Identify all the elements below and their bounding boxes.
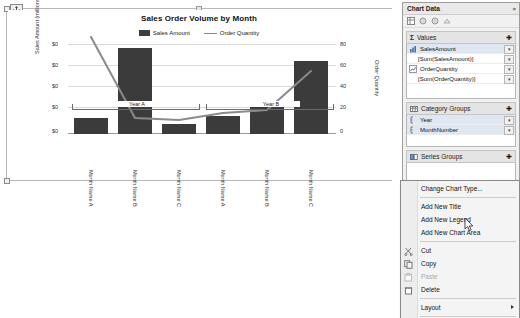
context-menu-separator-1: [420, 197, 516, 198]
menu-label-copy: Copy: [421, 260, 436, 267]
series-groups-header[interactable]: Series Groups ✚: [406, 150, 516, 163]
close-icon[interactable]: ×: [512, 4, 516, 15]
values-dropdown-order-quantity-expression[interactable]: ▾: [504, 75, 514, 84]
group-label-year-a: Year A: [108, 101, 166, 107]
group-icon: [409, 116, 417, 124]
menu-label-delete: Delete: [421, 286, 440, 293]
chart-data-pane-title-text: Chart Data: [407, 5, 440, 12]
chart-data-pane[interactable]: Chart Data × Σ Values ✚: [402, 2, 520, 186]
y-tick-left-0: $0: [34, 129, 58, 135]
add-category-group-icon[interactable]: ✚: [506, 105, 512, 113]
category-groups-empty-space[interactable]: [407, 135, 515, 146]
category-groups-dropdown-monthnumber[interactable]: ▾: [504, 126, 514, 135]
selection-border-bottom: [6, 180, 392, 181]
add-group-icon[interactable]: [431, 17, 439, 25]
menu-item-add-new-legend[interactable]: Add New Legend: [401, 213, 519, 226]
chart-context-menu[interactable]: Change Chart Type... Add New Title Add N…: [400, 180, 520, 318]
add-value-icon[interactable]: ✚: [506, 34, 512, 42]
category-groups-label-year: Year: [420, 117, 432, 123]
order-quantity-line-series[interactable]: [68, 32, 336, 134]
y-tick-right-20: 20: [340, 105, 364, 111]
bar-chart-icon: [409, 45, 417, 53]
scissors-icon: [404, 247, 413, 256]
sigma-icon: Σ: [410, 34, 414, 41]
values-dropdown-sales-amount-expression[interactable]: ▾: [504, 55, 514, 64]
values-section-header[interactable]: Σ Values ✚: [406, 31, 516, 44]
category-groups-dropdown-year[interactable]: ▾: [504, 116, 514, 125]
values-list-empty-space[interactable]: [407, 84, 515, 98]
category-groups-section: Category Groups ✚ Year ▾ MonthNumber ▾: [406, 102, 516, 147]
values-dropdown-order-quantity[interactable]: ▾: [504, 65, 514, 74]
x-category-5: Month Name C: [308, 170, 314, 207]
menu-item-cut[interactable]: Cut: [401, 244, 519, 257]
category-groups-list[interactable]: Year ▾ MonthNumber ▾: [406, 115, 516, 147]
y-tick-left-1: $0: [34, 105, 58, 111]
selection-border-left: [6, 8, 7, 180]
resize-handle-bottom-left[interactable]: [4, 178, 10, 184]
values-section: Σ Values ✚ SalesAmount ▾ [Sum(SalesAmoun…: [406, 31, 516, 99]
context-menu-separator-4: [420, 316, 516, 317]
add-field-icon[interactable]: [419, 17, 427, 25]
category-groups-row-monthnumber[interactable]: MonthNumber ▾: [407, 125, 515, 135]
menu-item-delete[interactable]: Delete: [401, 283, 519, 296]
menu-item-paste: Paste: [401, 270, 519, 283]
menu-label-cut: Cut: [421, 247, 431, 254]
x-category-1: Month Name B: [132, 170, 138, 207]
group-label-year-b: Year B: [242, 101, 300, 107]
context-menu-separator-3: [420, 298, 516, 299]
values-expression-order-quantity: [Sum(OrderQuantity)]: [409, 76, 475, 82]
group-icon: [409, 126, 417, 134]
copy-icon: [404, 260, 413, 269]
menu-label-change-chart-type: Change Chart Type...: [421, 185, 483, 192]
mouse-cursor-icon: [464, 217, 475, 232]
values-label-sales-amount: SalesAmount: [420, 46, 456, 52]
context-menu-separator-2: [420, 241, 516, 242]
values-list[interactable]: SalesAmount ▾ [Sum(SalesAmount)] ▾ Order…: [406, 44, 516, 99]
values-row-sales-amount-expression[interactable]: [Sum(SalesAmount)] ▾: [407, 54, 515, 64]
menu-item-layout[interactable]: Layout: [401, 301, 519, 314]
y-tick-right-80: 80: [340, 42, 364, 48]
menu-label-paste: Paste: [421, 273, 438, 280]
menu-item-add-new-title[interactable]: Add New Title: [401, 200, 519, 213]
menu-item-copy[interactable]: Copy: [401, 257, 519, 270]
chart-plot-area[interactable]: Month Name A Month Name B Month Name C M…: [68, 44, 336, 134]
submenu-arrow-icon: [511, 305, 514, 309]
values-header-label: Values: [417, 34, 436, 41]
values-row-order-quantity-expression[interactable]: [Sum(OrderQuantity)] ▾: [407, 74, 515, 84]
move-up-icon[interactable]: [443, 17, 451, 25]
category-groups-icon: [410, 105, 418, 113]
y-tick-right-40: 40: [340, 84, 364, 90]
y-tick-left-4: $0: [34, 42, 58, 48]
chart-data-pane-title: Chart Data ×: [403, 3, 519, 15]
y-axis-title-right[interactable]: Order Quantity: [374, 60, 380, 96]
category-groups-label-monthnumber: MonthNumber: [420, 127, 458, 133]
series-groups-header-label: Series Groups: [421, 153, 463, 160]
y-tick-left-2: $0: [34, 84, 58, 90]
values-row-sales-amount[interactable]: SalesAmount ▾: [407, 44, 515, 54]
add-series-group-icon[interactable]: ✚: [506, 153, 512, 161]
grid-icon[interactable]: [407, 17, 415, 25]
y-tick-left-3: $0: [34, 63, 58, 69]
chart-region[interactable]: Sales Order Volume by Month Sales Amount…: [8, 10, 390, 178]
paste-icon: [404, 273, 413, 282]
delete-icon: [404, 286, 413, 295]
series-groups-icon: [410, 153, 418, 161]
chart-title[interactable]: Sales Order Volume by Month: [8, 14, 390, 23]
x-category-0: Month Name A: [88, 170, 94, 206]
values-row-order-quantity[interactable]: OrderQuantity ▾: [407, 64, 515, 74]
menu-item-change-chart-type[interactable]: Change Chart Type...: [401, 182, 519, 195]
category-groups-row-year[interactable]: Year ▾: [407, 115, 515, 125]
category-groups-header[interactable]: Category Groups ✚: [406, 102, 516, 115]
y-tick-right-60: 60: [340, 63, 364, 69]
report-design-surface[interactable]: Sales Order Volume by Month Sales Amount…: [0, 0, 400, 226]
y-tick-right-0: 0: [340, 129, 364, 135]
values-dropdown-sales-amount[interactable]: ▾: [504, 45, 514, 54]
x-category-3: Month Name A: [220, 170, 226, 206]
values-label-order-quantity: OrderQuantity: [420, 66, 458, 72]
x-category-2: Month Name C: [176, 170, 182, 207]
category-groups-header-label: Category Groups: [421, 105, 471, 112]
values-expression-sales-amount: [Sum(SalesAmount)]: [409, 56, 473, 62]
menu-item-add-new-chart-area[interactable]: Add New Chart Area: [401, 226, 519, 239]
line-chart-icon: [409, 65, 417, 73]
chart-data-toolbar[interactable]: [403, 15, 519, 28]
